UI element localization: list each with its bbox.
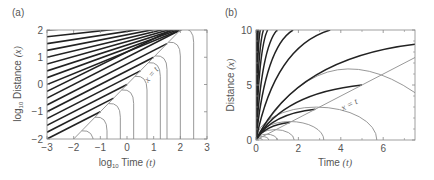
y-tick-label: −1 <box>32 106 44 117</box>
x-tick-label: 0 <box>124 142 130 153</box>
black-characteristic <box>47 0 207 19</box>
x-tick-label: 0 <box>253 143 259 154</box>
x-tick-label: 4 <box>338 143 344 154</box>
panel-a: (a) −3−2−10123−2−1012 x = t log10 Time (… <box>12 0 210 169</box>
black-characteristic <box>47 0 207 19</box>
black-characteristic <box>47 19 207 23</box>
gray-curve <box>122 90 134 142</box>
black-characteristic <box>47 10 207 20</box>
gray-curve <box>135 76 147 142</box>
panel-b-annotation: x = t <box>338 96 359 113</box>
y-tick-label: 0 <box>37 79 43 90</box>
x-tick-label: −3 <box>41 142 53 153</box>
y-tick-label: 0 <box>246 135 252 146</box>
x-tick-label: 6 <box>380 143 386 154</box>
panel-a-ylabel: log10 Distance (x) <box>12 46 24 122</box>
x-tick-label: −1 <box>95 142 107 153</box>
x-tick-label: 3 <box>204 142 210 153</box>
black-characteristic <box>47 19 207 78</box>
x-tick-label: 2 <box>178 142 184 153</box>
panel-b-curves <box>256 30 415 140</box>
y-tick-label: 5 <box>246 80 252 91</box>
panel-a-xlabel: log10 Time (t) <box>99 157 156 169</box>
gray-curve <box>95 117 107 142</box>
gray-curve <box>182 29 194 142</box>
gray-curve <box>82 131 94 145</box>
x-tick-label: 2 <box>296 143 302 154</box>
black-characteristic <box>47 3 207 19</box>
panel-b-ylabel: Distance (x) <box>225 58 237 111</box>
gray-curve <box>168 42 180 142</box>
panel-b-label: (b) <box>225 7 237 18</box>
black-characteristic <box>47 98 114 132</box>
black-characteristic <box>47 0 207 19</box>
x-tick-label: −2 <box>68 142 80 153</box>
panel-b-xlabel: Time (t) <box>318 157 353 169</box>
panel-b: (b) 02460510 x = t Time (t) Distance (x) <box>225 7 415 169</box>
panel-a-label: (a) <box>12 7 24 18</box>
figure: (a) −3−2−10123−2−1012 x = t log10 Time (… <box>0 0 434 180</box>
black-fan-curve <box>256 44 415 140</box>
black-characteristic <box>47 16 207 19</box>
y-tick-label: 1 <box>37 52 43 63</box>
y-tick-label: −2 <box>32 134 44 145</box>
y-tick-label: 10 <box>241 25 253 36</box>
gray-curve <box>108 103 120 141</box>
x-tick-label: 1 <box>151 142 157 153</box>
panel-a-curves <box>47 0 207 157</box>
black-characteristic <box>47 112 100 139</box>
black-characteristic <box>47 19 207 30</box>
y-tick-label: 2 <box>37 25 43 36</box>
